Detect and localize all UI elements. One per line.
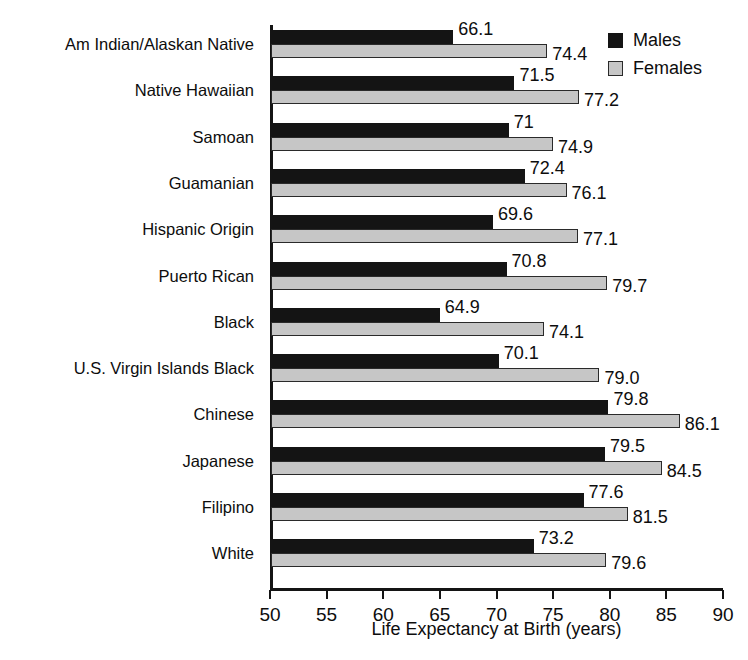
legend-item: Females (608, 54, 702, 82)
bar-value-label: 84.5 (667, 462, 702, 480)
category-label: U.S. Virgin Islands Black (74, 360, 254, 377)
life-expectancy-bar-chart: Am Indian/Alaskan NativeNative HawaiianS… (0, 0, 748, 660)
bar-males (271, 447, 605, 461)
chart-legend: MalesFemales (608, 26, 702, 82)
bar-value-label: 70.1 (504, 344, 539, 362)
category-label: Chinese (193, 406, 254, 423)
x-axis-title: Life Expectancy at Birth (years) (270, 620, 723, 638)
category-label: Guamanian (169, 175, 254, 192)
bar-value-label: 79.8 (613, 390, 648, 408)
bar-value-label: 77.2 (584, 91, 619, 109)
x-tick (722, 590, 724, 599)
x-tick (326, 590, 328, 599)
category-label: Filipino (202, 499, 254, 516)
category-label: Puerto Rican (159, 268, 254, 285)
bar-females (271, 322, 544, 336)
category-label: Japanese (182, 453, 254, 470)
legend-swatch-males-icon (608, 33, 623, 48)
legend-swatch-females-icon (608, 61, 623, 76)
bar-males (271, 539, 534, 553)
bar-value-label: 69.6 (498, 205, 533, 223)
bar-value-label: 79.5 (610, 437, 645, 455)
x-tick (609, 590, 611, 599)
bar-males (271, 262, 507, 276)
bar-value-label: 74.9 (558, 138, 593, 156)
bar-males (271, 169, 525, 183)
bar-males (271, 354, 499, 368)
bar-females (271, 461, 662, 475)
category-axis-labels: Am Indian/Alaskan NativeNative HawaiianS… (0, 25, 262, 582)
bar-males (271, 308, 440, 322)
legend-label: Females (633, 59, 702, 77)
bar-males (271, 400, 608, 414)
bar-value-label: 79.7 (612, 277, 647, 295)
x-tick (269, 590, 271, 599)
bar-males (271, 30, 453, 44)
bar-value-label: 77.6 (589, 483, 624, 501)
bar-value-label: 66.1 (458, 20, 493, 38)
bar-females (271, 368, 599, 382)
x-tick (552, 590, 554, 599)
legend-item: Males (608, 26, 702, 54)
bar-value-label: 74.4 (552, 45, 587, 63)
bar-value-label: 76.1 (572, 184, 607, 202)
bar-males (271, 76, 514, 90)
category-label: Hispanic Origin (142, 221, 254, 238)
category-label: Samoan (193, 129, 254, 146)
bar-females (271, 90, 579, 104)
bar-males (271, 123, 509, 137)
x-tick (665, 590, 667, 599)
x-tick (382, 590, 384, 599)
category-label: White (212, 545, 254, 562)
legend-label: Males (633, 31, 681, 49)
bar-value-label: 64.9 (445, 298, 480, 316)
bar-value-label: 73.2 (539, 529, 574, 547)
bar-value-label: 72.4 (530, 159, 565, 177)
bar-value-label: 71 (514, 113, 534, 131)
bar-females (271, 229, 578, 243)
bar-males (271, 493, 584, 507)
bar-value-label: 70.8 (512, 252, 547, 270)
bar-females (271, 553, 606, 567)
bar-value-label: 77.1 (583, 230, 618, 248)
bar-females (271, 137, 553, 151)
bar-value-label: 81.5 (633, 508, 668, 526)
category-label: Am Indian/Alaskan Native (65, 36, 254, 53)
bar-value-label: 79.6 (611, 554, 646, 572)
plot-area: 505560657075808590 66.174.471.577.27174.… (270, 25, 723, 590)
bar-females (271, 44, 547, 58)
bar-value-label: 86.1 (685, 415, 720, 433)
bar-males (271, 215, 493, 229)
x-tick (496, 590, 498, 599)
bar-females (271, 507, 628, 521)
bar-value-label: 71.5 (519, 66, 554, 84)
bar-value-label: 79.0 (604, 369, 639, 387)
bar-females (271, 414, 680, 428)
bar-females (271, 276, 607, 290)
category-label: Black (214, 314, 254, 331)
bar-females (271, 183, 567, 197)
bar-value-label: 74.1 (549, 323, 584, 341)
category-label: Native Hawaiian (135, 82, 254, 99)
x-tick (439, 590, 441, 599)
